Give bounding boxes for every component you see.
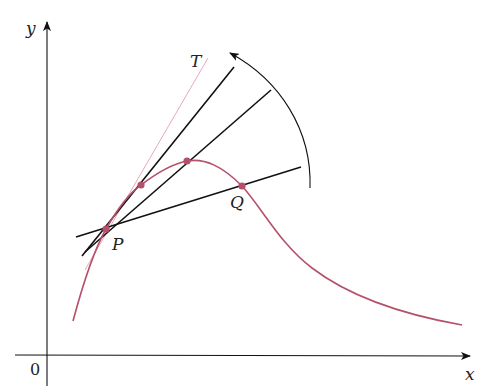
- tangent-line: [85, 58, 208, 270]
- secant-tangent-diagram: y x 0 T P Q: [0, 0, 488, 388]
- origin-label: 0: [30, 360, 40, 379]
- point-p: [102, 225, 109, 232]
- y-axis-label: y: [25, 18, 36, 38]
- point-q-label: Q: [230, 192, 244, 212]
- point-p-label: P: [111, 234, 124, 254]
- point-q: [238, 182, 245, 189]
- function-curve: [73, 160, 462, 325]
- secant-line-pq: [76, 167, 301, 237]
- tangent-label: T: [190, 51, 203, 71]
- point-q2: [137, 181, 144, 188]
- x-axis: [15, 355, 470, 356]
- point-q1: [183, 157, 190, 164]
- secant-line-mid: [85, 90, 271, 252]
- x-axis-label: x: [465, 364, 475, 384]
